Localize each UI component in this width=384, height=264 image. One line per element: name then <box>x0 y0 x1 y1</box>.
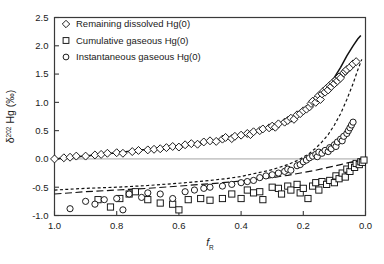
x-tick-label: 0.4 <box>234 220 247 231</box>
marker-circle <box>114 195 120 201</box>
legend-label-diamond: Remaining dissolved Hg(0) <box>76 18 190 29</box>
marker-circle <box>92 201 98 207</box>
marker-square <box>198 195 204 201</box>
marker-circle <box>238 180 244 186</box>
marker-circle <box>229 181 235 187</box>
marker-circle <box>157 191 163 197</box>
marker-square <box>300 185 306 191</box>
marker-circle <box>350 119 356 125</box>
marker-circle <box>207 184 213 190</box>
marker-circle <box>126 191 132 197</box>
y-tick-label: 2.5 <box>35 12 48 23</box>
marker-square <box>244 187 250 193</box>
y-tick-label: 2.0 <box>35 40 48 51</box>
y-tick-label: 0.0 <box>35 153 48 164</box>
y-tick-label: -0.5 <box>32 182 48 193</box>
marker-circle <box>269 172 275 178</box>
marker-square <box>238 195 244 201</box>
marker-square <box>313 180 319 186</box>
marker-circle <box>182 189 188 195</box>
marker-square <box>145 197 151 203</box>
marker-square <box>305 195 311 201</box>
legend-marker-square <box>63 38 69 44</box>
marker-circle <box>250 177 256 183</box>
figure-container: 1.00.80.60.40.20.0-1.0-0.50.00.51.01.52.… <box>0 0 384 264</box>
marker-square <box>361 157 367 163</box>
x-tick-label: 0.6 <box>172 220 185 231</box>
y-tick-label: -1.0 <box>32 210 48 221</box>
marker-circle <box>244 178 250 184</box>
y-tick-label: 1.5 <box>35 68 48 79</box>
marker-circle <box>263 173 269 179</box>
marker-square <box>185 197 191 203</box>
legend: Remaining dissolved Hg(0)Cumulative gase… <box>62 18 200 62</box>
marker-square <box>176 207 182 213</box>
marker-square <box>260 197 266 203</box>
marker-circle <box>275 170 281 176</box>
marker-circle <box>201 185 207 191</box>
marker-circle <box>191 187 197 193</box>
x-tick-label: 0.0 <box>359 220 372 231</box>
marker-square <box>132 189 138 195</box>
legend-label-square: Cumulative gaseous Hg(0) <box>76 35 188 46</box>
marker-square <box>288 187 294 193</box>
marker-circle <box>257 174 263 180</box>
marker-circle <box>219 183 225 189</box>
marker-circle <box>288 167 294 173</box>
y-axis-title: δ202 Hg (‰) <box>4 90 16 143</box>
marker-square <box>316 187 322 193</box>
marker-square <box>107 204 113 210</box>
marker-square <box>294 181 300 187</box>
legend-label-circle: Instantaneous gaseous Hg(0) <box>76 51 201 62</box>
legend-marker-circle <box>63 54 69 60</box>
marker-circle <box>101 197 107 203</box>
marker-square <box>207 197 213 203</box>
x-tick-label: 0.8 <box>110 220 123 231</box>
marker-square <box>219 195 225 201</box>
marker-circle <box>145 190 151 196</box>
marker-circle <box>138 194 144 200</box>
marker-square <box>157 200 163 206</box>
x-tick-label: 1.0 <box>48 220 61 231</box>
y-tick-label: 0.5 <box>35 125 48 136</box>
marker-circle <box>83 198 89 204</box>
marker-circle <box>170 195 176 201</box>
chart-svg: 1.00.80.60.40.20.0-1.0-0.50.00.51.01.52.… <box>0 0 384 264</box>
marker-circle <box>67 206 73 212</box>
x-tick-label: 0.2 <box>297 220 310 231</box>
marker-square <box>250 190 256 196</box>
marker-square <box>269 184 275 190</box>
y-tick-label: 1.0 <box>35 97 48 108</box>
marker-square <box>257 189 263 195</box>
x-axis-title: fR <box>206 236 214 251</box>
marker-circle <box>120 207 126 213</box>
marker-square <box>229 191 235 197</box>
marker-square <box>278 191 284 197</box>
